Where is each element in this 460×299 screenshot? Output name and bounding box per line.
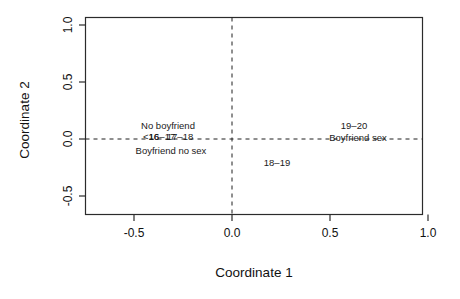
point-label-age-18-19: 18–19 bbox=[264, 157, 290, 168]
x-tick-label-3: 1.0 bbox=[420, 226, 437, 240]
y-tick-label-0: 1.0 bbox=[61, 16, 75, 33]
plot-frame bbox=[86, 18, 423, 215]
x-tick-label-0: -0.5 bbox=[124, 226, 145, 240]
x-tick-label-1: 0.0 bbox=[224, 226, 241, 240]
y-tick-label-1: 0.5 bbox=[61, 73, 75, 90]
point-label-age-17-18: 17–18 bbox=[167, 131, 193, 142]
point-label-boyfriend-no-sex: Boyfriend no sex bbox=[136, 145, 207, 156]
y-tick-label-2: 0.0 bbox=[61, 130, 75, 147]
y-tick-label-3: -0.5 bbox=[61, 185, 75, 206]
point-label-boyfriend-sex: Boyfriend sex bbox=[329, 132, 387, 143]
x-tick-label-2: 0.5 bbox=[322, 226, 339, 240]
point-label-no-boyfriend: No boyfriend bbox=[141, 120, 195, 131]
x-axis-title: Coordinate 1 bbox=[215, 265, 292, 280]
y-axis-title: Coordinate 2 bbox=[17, 81, 32, 158]
plot-canvas: -0.5 0.0 0.5 1.0 1.0 0.5 0.0 -0.5 Coordi… bbox=[0, 0, 460, 299]
correspondence-analysis-plot: -0.5 0.0 0.5 1.0 1.0 0.5 0.0 -0.5 Coordi… bbox=[0, 0, 460, 299]
point-label-age-19-20: 19–20 bbox=[341, 120, 367, 131]
